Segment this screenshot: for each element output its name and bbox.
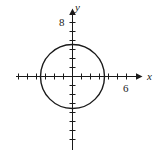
x-axis-label: x xyxy=(147,71,152,82)
coordinate-plane-svg xyxy=(0,0,161,153)
x-tick-label-6: 6 xyxy=(123,83,129,94)
graph-figure: y x 8 6 xyxy=(0,0,161,153)
y-axis-label: y xyxy=(75,2,80,13)
y-tick-label-8: 8 xyxy=(59,17,65,28)
x-axis xyxy=(16,73,143,80)
y-axis xyxy=(69,9,76,151)
x-axis-arrowhead xyxy=(136,73,143,80)
